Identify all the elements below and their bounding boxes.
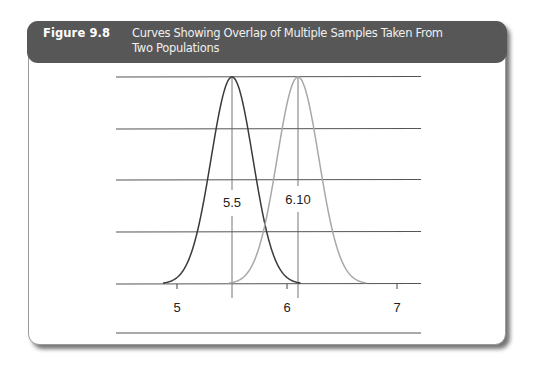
labels: 5.56.10 [223,192,311,210]
gridline [116,232,421,233]
x-axis-line [116,284,421,285]
x-tick-label: 5 [173,300,180,315]
mean-label: 5.5 [223,195,241,210]
mean-lines [232,77,298,298]
x-tick-label: 6 [283,300,290,315]
x-axis-ticks: 567 [173,284,400,315]
normal-curves-chart: 567 5.56.10 [0,0,539,369]
gridline [116,77,421,78]
gridline [116,180,421,181]
gridline [116,129,421,130]
mean-label: 6.10 [285,192,310,207]
x-tick-label: 7 [393,300,400,315]
